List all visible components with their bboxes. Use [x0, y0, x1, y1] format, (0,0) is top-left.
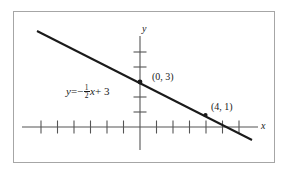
plot-point-0-3 — [138, 80, 143, 85]
point-label-y-intercept: (0, 3) — [152, 72, 174, 82]
fraction-numerator: 1 — [84, 84, 90, 92]
equation-constant-term: + 3 — [95, 85, 109, 97]
equation-annotation: y=−12x+ 3 — [66, 84, 109, 101]
x-axis-label: x — [261, 121, 265, 131]
point-label-second-point: (4, 1) — [211, 102, 233, 112]
y-axis-label: y — [142, 24, 146, 34]
equation-minus-sign: − — [77, 85, 83, 97]
plot-point-4-1 — [203, 113, 207, 117]
equation-fraction: 12 — [84, 84, 90, 101]
figure-root: y=−12x+ 3 (0, 3) (4, 1) y x — [0, 0, 289, 175]
fraction-denominator: 2 — [84, 91, 90, 100]
